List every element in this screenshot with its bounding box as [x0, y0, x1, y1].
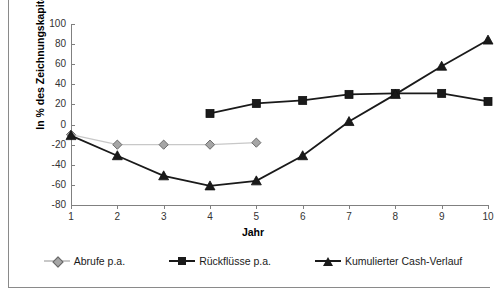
plot-series-area: [10, 2, 496, 286]
data-point-square: [345, 90, 353, 98]
data-point-diamond: [159, 140, 168, 149]
data-point-diamond: [205, 140, 214, 149]
legend-symbol-diamond-icon: [52, 256, 63, 267]
legend-marker: [315, 255, 341, 267]
page-rule-bottom: [8, 287, 490, 288]
legend-symbol-square-icon: [178, 257, 186, 265]
page-rule-left: [8, 0, 9, 288]
legend-item-1[interactable]: Abrufe p.a.: [44, 255, 125, 267]
data-point-triangle: [159, 171, 169, 180]
x-axis-title: Jahr: [10, 226, 496, 238]
legend-item-2[interactable]: Rückflüsse p.a.: [169, 255, 271, 267]
legend-marker: [169, 255, 195, 267]
data-point-triangle: [344, 117, 354, 126]
series-2: [206, 89, 492, 117]
legend-label: Rückflüsse p.a.: [199, 255, 271, 267]
data-point-square: [206, 109, 214, 117]
data-point-square: [438, 89, 446, 97]
data-point-square: [484, 97, 492, 105]
legend-label: Abrufe p.a.: [74, 255, 125, 267]
legend-label: Kumulierter Cash-Verlauf: [345, 255, 462, 267]
data-point-diamond: [252, 138, 261, 147]
series-line: [71, 40, 488, 186]
data-point-triangle: [437, 61, 447, 70]
chart-figure: In % des Zeichnungskapitals 100806040200…: [10, 2, 496, 286]
data-point-triangle: [483, 35, 493, 44]
legend-marker: [44, 255, 70, 267]
legend-item-3[interactable]: Kumulierter Cash-Verlauf: [315, 255, 462, 267]
data-point-square: [299, 96, 307, 104]
data-point-triangle: [112, 151, 122, 160]
series-3: [66, 35, 493, 190]
chart-page: In % des Zeichnungskapitals 100806040200…: [0, 0, 497, 295]
legend-symbol-triangle-icon: [323, 257, 333, 266]
data-point-square: [252, 99, 260, 107]
chart-legend: Abrufe p.a.Rückflüsse p.a.Kumulierter Ca…: [10, 252, 496, 270]
data-point-diamond: [113, 140, 122, 149]
